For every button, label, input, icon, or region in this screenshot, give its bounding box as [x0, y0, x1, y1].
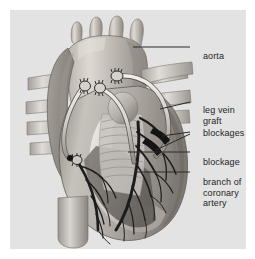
label-blockage: blockage — [203, 157, 240, 168]
label-branch-line2: coronary — [203, 188, 241, 199]
label-branch-coronary-artery: branch of coronary artery — [203, 177, 241, 209]
label-leg-vein-line2: graft — [203, 116, 235, 127]
label-leg-vein-line1: leg vein — [203, 105, 235, 116]
label-branch-line1: branch of — [203, 177, 241, 188]
inferior-vena-cava — [58, 196, 88, 248]
label-aorta: aorta — [203, 51, 224, 62]
label-branch-line3: artery — [203, 198, 241, 209]
label-leg-vein-graft: leg vein graft — [203, 105, 235, 126]
label-blockages: blockages — [203, 128, 244, 139]
figure-page: aorta leg vein graft blockages blockage … — [0, 0, 255, 259]
illustration-panel: aorta leg vein graft blockages blockage … — [10, 10, 246, 249]
